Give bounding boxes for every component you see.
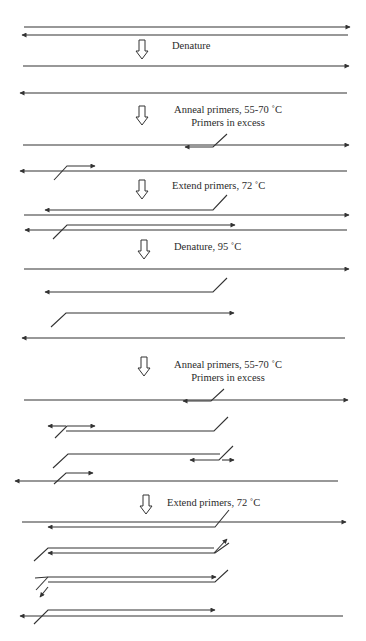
anneal1-primer-forward	[54, 166, 95, 180]
process-steps: DenatureAnneal primers, 55-70 ˚CPrimers …	[136, 40, 282, 514]
anneal2-primer-reverse-on-product	[190, 446, 233, 460]
extend2-reverse-extension	[36, 577, 48, 590]
extend1-new-forward-strand	[53, 225, 235, 239]
down-arrow-icon	[136, 180, 148, 199]
step-anneal-1: Anneal primers, 55-70 ˚CPrimers in exces…	[136, 104, 282, 128]
extend1-new-reverse-strand	[45, 195, 227, 210]
step-label: Anneal primers, 55-70 ˚C	[174, 104, 282, 115]
step-extend-2: Extend primers, 72 ˚C	[140, 495, 260, 514]
down-arrow-icon	[138, 240, 150, 259]
down-arrow-icon	[136, 106, 148, 125]
pcr-diagram: DenatureAnneal primers, 55-70 ˚CPrimers …	[0, 0, 366, 641]
extend2-reverse-product	[48, 570, 228, 582]
extend2-forward-product	[34, 548, 214, 561]
step-label: Primers in excess	[191, 117, 265, 128]
denature2-new-forward-strand	[51, 313, 234, 327]
step-anneal-2: Anneal primers, 55-70 ˚CPrimers in exces…	[138, 357, 282, 383]
dna-strands	[15, 27, 350, 624]
denature2-new-reverse-strand	[45, 278, 227, 292]
step-label: Extend primers, 72 ˚C	[172, 180, 265, 191]
step-label: Denature, 95 ˚C	[174, 241, 241, 252]
anneal2-primer-forward	[54, 473, 93, 484]
extend2-new-reverse-strand	[48, 510, 229, 527]
anneal2-reverse-product	[66, 417, 228, 431]
down-arrow-icon	[138, 357, 150, 376]
step-denature-1: Denature	[136, 40, 211, 59]
down-arrow-icon	[136, 40, 148, 59]
anneal2-primer-reverse	[183, 389, 224, 401]
down-arrow-icon	[140, 495, 152, 514]
anneal2-forward-product	[53, 454, 220, 468]
extend2-forward-on-product	[40, 587, 48, 597]
step-label: Extend primers, 72 ˚C	[167, 497, 260, 508]
extend2-forward-new	[35, 577, 216, 578]
anneal2-primer-forward-on-product	[55, 426, 95, 438]
step-label: Denature	[172, 40, 211, 51]
step-label: Primers in excess	[191, 372, 265, 383]
step-label: Anneal primers, 55-70 ˚C	[174, 359, 282, 370]
extend2-new-forward-strand	[34, 610, 215, 624]
step-extend-1: Extend primers, 72 ˚C	[136, 180, 265, 199]
step-denature-2: Denature, 95 ˚C	[138, 240, 241, 259]
